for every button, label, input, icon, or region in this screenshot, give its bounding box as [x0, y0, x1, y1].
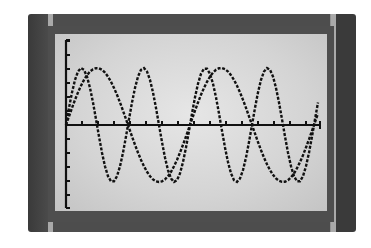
graph-plot — [0, 0, 371, 248]
